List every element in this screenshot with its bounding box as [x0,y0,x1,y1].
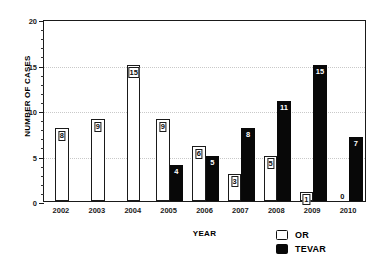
bar-value-label: 5 [210,158,215,167]
x-axis-tick-label-2008: 2008 [268,206,285,215]
x-axis-tick-label-2010: 2010 [340,206,357,215]
bar-or-2002: 8 [55,128,69,201]
y-axis-title: NUMBER OF CASES [24,26,32,166]
bar-value-label: 11 [280,103,289,112]
x-axis-tick-label-2005: 2005 [160,206,177,215]
bar-tevar-2007: 8 [241,128,255,201]
y-axis-tick-label: 15 [29,62,37,71]
legend-swatch-or-icon [276,230,288,240]
chart-legend: OR TEVAR [276,228,326,256]
bar-value-label: 5 [267,158,274,169]
bar-tevar-2009: 15 [313,65,327,202]
legend-label-tevar: TEVAR [295,245,326,254]
y-axis-tick [39,203,44,204]
bar-chart-figure: NUMBER OF CASES 05101520 891594653851111… [0,0,381,261]
plot-area: 05101520 891594653851111507 [43,20,366,202]
bars-layer: 891594653851111507 [44,21,365,201]
x-axis-tick-label-2003: 2003 [88,206,105,215]
bar-value-label: 15 [315,67,324,76]
legend-label-or: OR [295,231,309,240]
legend-item-tevar: TEVAR [276,242,326,256]
bar-value-label: 1 [303,194,310,205]
legend-swatch-tevar-icon [276,244,288,254]
bar-or-2005: 9 [156,119,170,201]
x-axis-tick-label-2006: 2006 [196,206,213,215]
x-axis-tick-label-2009: 2009 [304,206,321,215]
bar-value-label: 4 [174,167,179,176]
bar-or-2008: 5 [264,156,278,202]
bar-value-label: 8 [246,131,251,140]
bar-value-label: 9 [159,122,166,133]
x-axis-tick-label-2007: 2007 [232,206,249,215]
x-axis-tick-label-2002: 2002 [53,206,70,215]
y-axis-tick-label: 0 [33,199,37,208]
bar-tevar-2005: 4 [170,165,184,201]
bar-value-label: 15 [128,67,139,78]
bar-tevar-2006: 5 [206,156,220,202]
bar-value-label: 8 [58,131,65,142]
bar-or-2009: 1 [300,192,314,201]
y-axis-tick-label: 10 [29,108,37,117]
bar-or-2007: 3 [228,174,242,201]
bar-or-2006: 6 [192,146,206,201]
y-axis-tick-label: 5 [33,153,37,162]
bar-or-2004: 15 [127,65,141,202]
bar-value-label: 7 [353,140,358,149]
bar-value-label: 6 [195,149,202,160]
bar-value-label: 0 [340,193,345,202]
bar-value-label: 9 [94,122,101,133]
x-axis-tick-label-2004: 2004 [124,206,141,215]
bar-tevar-2008: 11 [277,101,291,201]
y-axis-tick-label: 20 [29,17,37,26]
bar-tevar-2010: 7 [349,137,363,201]
bar-or-2003: 9 [91,119,105,201]
bar-value-label: 3 [231,176,238,187]
legend-item-or: OR [276,228,326,242]
